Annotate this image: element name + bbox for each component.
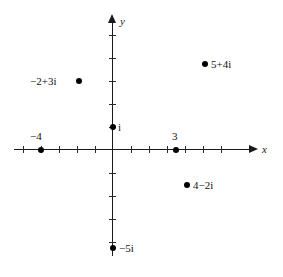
x-axis-tick [59,146,60,153]
data-point [76,78,82,84]
y-axis-tick [109,196,116,197]
data-point-label: −4 [30,131,42,142]
y-axis-tick [109,242,116,243]
y-axis-label: y [120,16,125,27]
data-point-label: 5+4i [211,59,231,70]
data-point [38,147,44,153]
data-point [110,245,116,251]
x-axis-tick [203,146,204,153]
y-axis-tick [109,81,116,82]
data-point-label: 4−2i [193,180,213,191]
y-axis-tick [109,219,116,220]
data-point [173,147,179,153]
data-point-label: i [118,122,121,133]
y-axis-tick [109,104,116,105]
data-point [202,61,208,67]
x-axis-tick [131,146,132,153]
data-point-label: 3 [172,131,178,142]
x-axis-tick [185,146,186,153]
data-point-label: −5i [119,243,134,254]
complex-plane-chart: x y −2+3i 5+4i i −4 3 4−2i −5i [0,0,283,277]
x-axis-tick [95,146,96,153]
y-axis-tick [109,35,116,36]
data-point-label: −2+3i [30,76,56,87]
x-axis-arrow-icon [249,145,258,153]
x-axis-label: x [262,144,267,155]
y-axis-tick [109,58,116,59]
x-axis-tick [149,146,150,153]
x-axis-tick [167,146,168,153]
x-axis-tick [23,146,24,153]
data-point [184,182,190,188]
x-axis-tick [77,146,78,153]
y-axis-arrow-icon [108,14,116,23]
x-axis-line [14,149,250,150]
y-axis-tick [109,173,116,174]
data-point [110,124,116,130]
x-axis-tick [221,146,222,153]
